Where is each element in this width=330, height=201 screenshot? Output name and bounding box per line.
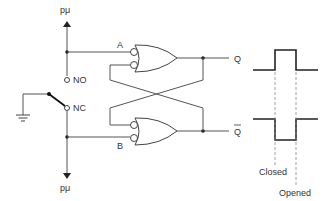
circuit-diagram: pμ A NO NC pμ B Q Q xyxy=(0,0,330,201)
nc-contact-icon xyxy=(65,106,70,111)
gate-2-bubble-feedback-icon xyxy=(131,122,138,129)
no-label: NO xyxy=(73,75,87,85)
waveform-q xyxy=(253,50,318,70)
gate-2 xyxy=(131,118,178,145)
gate-2-bubble-b-icon xyxy=(131,135,138,142)
supply-bottom-label: pμ xyxy=(60,183,70,193)
no-contact-icon xyxy=(65,78,70,83)
input-b-label: B xyxy=(117,141,123,151)
output-q-label: Q xyxy=(234,54,241,64)
supply-top-label: pμ xyxy=(60,5,70,15)
gate-1-bubble-a-icon xyxy=(131,49,138,56)
switch-blade xyxy=(16,92,65,121)
gate-1-bubble-feedback-icon xyxy=(131,62,138,69)
supply-top: pμ xyxy=(60,5,70,76)
opened-label: Opened xyxy=(279,188,311,198)
gate-1 xyxy=(131,45,178,72)
nc-label: NC xyxy=(73,103,86,113)
output-q-bar-label: Q xyxy=(234,127,241,137)
closed-label: Closed xyxy=(259,167,287,177)
waveform-q-bar xyxy=(253,119,318,140)
supply-bottom: pμ xyxy=(60,111,70,193)
input-a-label: A xyxy=(117,40,123,50)
